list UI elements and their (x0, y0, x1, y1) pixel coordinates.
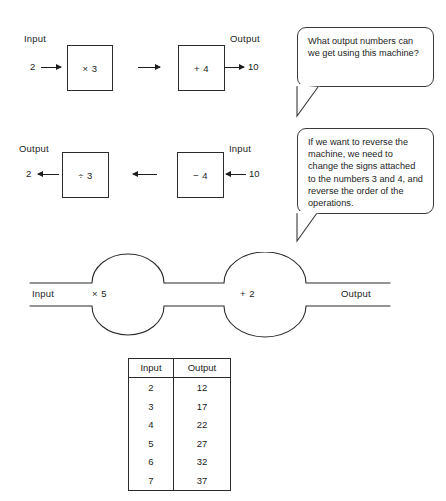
table-cell-input: 5 (129, 434, 173, 453)
forward-op2-label: + 4 (194, 63, 209, 74)
table-cell-input: 3 (129, 397, 173, 416)
table-cell-input: 4 (129, 415, 173, 434)
arrow-right-icon (224, 67, 244, 68)
table-cell-output: 37 (173, 471, 230, 490)
table-row: 5 27 (129, 434, 230, 453)
pipeline-output-label: Output (341, 288, 371, 299)
table-header-row: Input Output (129, 359, 230, 378)
speech-bubble-explanation-text: If we want to reverse the machine, we ne… (308, 136, 424, 209)
speech-bubble-tail-icon (294, 211, 334, 247)
worksheet-page: Input 2 × 3 + 4 Output 10 What output nu… (0, 0, 446, 501)
table-cell-output: 22 (173, 415, 230, 434)
table-header-input: Input (129, 359, 173, 378)
forward-output-value: 10 (248, 61, 259, 72)
reverse-op1-box: ÷ 3 (62, 152, 109, 198)
arrow-right-icon (138, 67, 160, 68)
table-row: 2 12 (129, 378, 230, 397)
table-cell-input: 7 (129, 471, 173, 490)
forward-output-label: Output (230, 33, 260, 44)
forward-op1-label: × 3 (83, 63, 98, 74)
pipeline-op2-label: + 2 (240, 288, 255, 299)
forward-input-value: 2 (30, 61, 35, 72)
arrow-left-icon (133, 174, 157, 175)
reverse-input-label: Input (229, 143, 251, 154)
arrow-right-icon (41, 67, 61, 68)
forward-input-label: Input (24, 33, 46, 44)
reverse-op2-label: − 4 (193, 170, 208, 181)
arrow-left-icon (38, 174, 59, 175)
table-cell-input: 2 (129, 378, 173, 397)
table-cell-input: 6 (129, 453, 173, 472)
table-header-output: Output (173, 359, 230, 378)
table-row: 7 37 (129, 471, 230, 490)
pipeline-input-label: Input (32, 288, 54, 299)
forward-op2-box: + 4 (178, 45, 225, 91)
reverse-op2-box: − 4 (177, 152, 224, 198)
reverse-output-value: 2 (26, 168, 31, 179)
arrow-left-icon (226, 174, 246, 175)
reverse-output-label: Output (19, 143, 49, 154)
table-cell-output: 32 (173, 453, 230, 472)
table-row: 3 17 (129, 397, 230, 416)
reverse-op1-label: ÷ 3 (78, 170, 93, 181)
reverse-input-value: 10 (249, 168, 260, 179)
speech-bubble-explanation: If we want to reverse the machine, we ne… (297, 128, 434, 214)
speech-bubble-question-text: What output numbers can we get using thi… (308, 35, 424, 59)
table-cell-output: 12 (173, 378, 230, 397)
speech-bubble-tail-icon (294, 84, 334, 120)
pipeline-op1-label: × 5 (92, 288, 107, 299)
table-row: 6 32 (129, 453, 230, 472)
table-cell-output: 17 (173, 397, 230, 416)
speech-bubble-question: What output numbers can we get using thi… (297, 27, 434, 87)
table-cell-output: 27 (173, 434, 230, 453)
forward-op1-box: × 3 (67, 45, 113, 91)
table-row: 4 22 (129, 415, 230, 434)
input-output-table: Input Output 2 12 3 17 4 22 5 (128, 358, 231, 491)
